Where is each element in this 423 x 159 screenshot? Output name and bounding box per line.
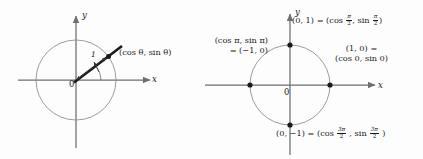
left-diagram-graphics — [0, 0, 200, 159]
label-top-cos-numerator: π — [346, 14, 352, 20]
label-point-bottom: (0, −1) = (cos 3π 2 , sin 3π 2 ) — [276, 127, 385, 139]
label-top-equals: = — [317, 15, 324, 25]
point-right — [327, 82, 332, 87]
label-point-top: (0, 1) = (cos π 2 , sin π 2 ) — [292, 14, 382, 26]
point-top — [287, 42, 292, 47]
label-point-right: (1, 0) = (cos 0, sin 0) — [335, 44, 388, 63]
label-top-cos-prefix: (cos — [326, 15, 343, 25]
label-top-sin-fraction: π 2 — [373, 14, 379, 26]
trigonometry-unit-circle-figure: 0 y x 1 (cos θ, sin θ) 0 y — [0, 0, 423, 159]
left-diagram-panel: 0 y x 1 (cos θ, sin θ) — [0, 0, 200, 159]
right-origin-label: 0 — [284, 87, 289, 97]
label-top-sin-denominator: 2 — [373, 20, 379, 27]
label-top-comma: , — [352, 15, 355, 25]
label-right-line2: (cos 0, sin 0) — [335, 54, 388, 64]
left-x-axis-label: x — [152, 74, 157, 84]
label-point-left: (cos π, sin π) = (−1, 0) — [194, 36, 268, 55]
point-left — [247, 82, 252, 87]
left-origin-label: 0 — [69, 79, 74, 89]
label-bottom-cos-fraction: 3π 2 — [337, 127, 346, 139]
right-diagram-panel: 0 y x (0, 1) = (cos π 2 , sin π 2 ) (cos… — [200, 0, 423, 159]
terminal-point-dot — [106, 54, 111, 59]
label-top-cos-fraction: π 2 — [346, 14, 352, 26]
label-bottom-cos-prefix: (cos — [317, 128, 334, 138]
label-bottom-sin-numerator: 3π — [370, 127, 379, 133]
label-bottom-equals: = — [307, 128, 314, 138]
label-bottom-sin-fraction: 3π 2 — [370, 127, 379, 139]
radius-origin-arrow — [77, 71, 89, 80]
label-top-close: ) — [379, 15, 382, 25]
label-top-sin-prefix: sin — [358, 15, 370, 25]
label-bottom-cos-numerator: 3π — [337, 127, 346, 133]
label-bottom-comma: , — [349, 128, 352, 138]
radius-length-label: 1 — [91, 51, 96, 60]
label-top-coordinate: (0, 1) — [292, 15, 314, 25]
right-x-axis-label: x — [378, 80, 383, 90]
label-bottom-close: ) — [382, 128, 385, 138]
label-bottom-cos-denominator: 2 — [337, 133, 346, 140]
label-bottom-sin-denominator: 2 — [370, 133, 379, 140]
label-bottom-sin-prefix: sin — [355, 128, 367, 138]
left-y-axis-label: y — [82, 10, 87, 20]
label-top-cos-denominator: 2 — [346, 20, 352, 27]
label-bottom-coordinate: (0, −1) — [276, 128, 305, 138]
terminal-point-label: (cos θ, sin θ) — [119, 48, 171, 58]
label-left-line2: = (−1, 0) — [194, 46, 268, 56]
